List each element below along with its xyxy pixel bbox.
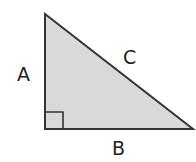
right-triangle-diagram: A C B <box>0 0 196 162</box>
label-side-b: B <box>112 137 125 159</box>
triangle-figure: A C B <box>0 0 196 162</box>
triangle-shape <box>45 14 193 129</box>
label-side-a: A <box>17 63 30 85</box>
label-hypotenuse-c: C <box>123 46 136 68</box>
